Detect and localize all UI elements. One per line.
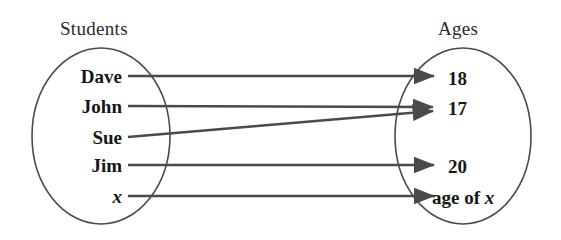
arrow-sue-to-17 — [128, 111, 433, 137]
arrow-john-to-17 — [128, 106, 433, 107]
age-value-age-of-x: age of x — [432, 187, 494, 209]
student-member-john: John — [12, 96, 122, 118]
age-value-17: 17 — [448, 98, 467, 120]
age-value-20: 20 — [448, 156, 467, 178]
age-value-18: 18 — [448, 68, 467, 90]
ages-set-title: Ages — [438, 18, 478, 40]
student-member-dave: Dave — [12, 66, 122, 88]
mapping-arrows — [128, 76, 434, 196]
students-set-title: Students — [60, 18, 128, 40]
student-member-jim: Jim — [12, 155, 122, 177]
student-member-sue: Sue — [12, 127, 122, 149]
student-member-x: x — [12, 186, 122, 208]
mapping-diagram-figure: Students Ages Dave John Sue Jim x 18 17 … — [0, 0, 561, 240]
